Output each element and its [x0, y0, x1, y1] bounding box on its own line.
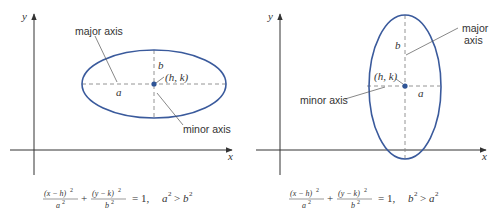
svg-text:+: +	[81, 192, 87, 204]
right-major-axis-label-line1: major	[462, 22, 489, 34]
svg-text:>: >	[174, 192, 180, 204]
right-center-label: (h, k)	[374, 70, 398, 83]
left-eq-term1-numerator: (x − h)	[44, 189, 67, 198]
left-eq-term1-denominator: a	[56, 201, 60, 210]
svg-text:2: 2	[168, 190, 172, 198]
left-center-label: (h, k)	[165, 71, 189, 84]
svg-text:2: 2	[62, 199, 65, 205]
svg-text:2: 2	[111, 199, 114, 205]
svg-text:2: 2	[70, 187, 73, 193]
left-eq-term2-numerator: (y − k)	[92, 189, 114, 198]
right-a-label: a	[418, 87, 424, 99]
right-eq-term2-denominator: b	[351, 201, 355, 210]
svg-text:2: 2	[316, 187, 319, 193]
svg-text:= 1,: = 1,	[378, 192, 395, 204]
right-major-axis-leader	[406, 28, 458, 55]
left-eq-term2-denominator: b	[105, 201, 109, 210]
right-major-axis-label-line2: axis	[464, 34, 483, 46]
left-minor-axis-label: minor axis	[183, 123, 231, 135]
left-x-axis-label: x	[227, 150, 233, 162]
right-eq-term1-denominator: a	[302, 201, 306, 210]
right-equation: (x − h) 2 a 2 + (y − k) 2 b 2 = 1, b 2 >…	[289, 187, 439, 210]
svg-text:>: >	[420, 192, 426, 204]
right-eq-term2-numerator: (y − k)	[338, 189, 360, 198]
svg-text:= 1,: = 1,	[132, 192, 149, 204]
left-y-axis-label: y	[21, 10, 27, 22]
svg-text:+: +	[327, 192, 333, 204]
right-b-label: b	[395, 39, 401, 51]
right-eq-term1-numerator: (x − h)	[290, 189, 313, 198]
ellipse-diagram: y x major axis minor axis b a (h, k) (x …	[0, 0, 495, 215]
right-x-axis-label: x	[481, 150, 487, 162]
svg-text:2: 2	[414, 190, 418, 198]
svg-text:2: 2	[118, 187, 121, 193]
left-minor-axis-leader	[157, 93, 183, 125]
left-major-axis-leader	[95, 36, 117, 82]
left-b-label: b	[158, 59, 164, 71]
right-y-axis-label: y	[267, 10, 273, 22]
left-major-axis-label: major axis	[75, 25, 123, 37]
right-minor-axis-label: minor axis	[300, 94, 348, 106]
left-panel: y x major axis minor axis b a (h, k) (x …	[10, 10, 233, 210]
left-center-point	[151, 81, 156, 86]
left-center-leader	[156, 77, 164, 83]
svg-text:2: 2	[364, 187, 367, 193]
left-a-label: a	[116, 86, 122, 98]
svg-text:2: 2	[189, 190, 193, 198]
left-equation: (x − h) 2 a 2 + (y − k) 2 b 2 = 1, a 2 >…	[43, 187, 193, 210]
right-center-point	[402, 83, 407, 88]
svg-text:2: 2	[435, 190, 439, 198]
right-panel: y x major axis minor axis b a (h, k) (x …	[256, 10, 489, 210]
svg-text:2: 2	[357, 199, 360, 205]
right-minor-axis-leader	[345, 87, 385, 99]
svg-text:2: 2	[308, 199, 311, 205]
